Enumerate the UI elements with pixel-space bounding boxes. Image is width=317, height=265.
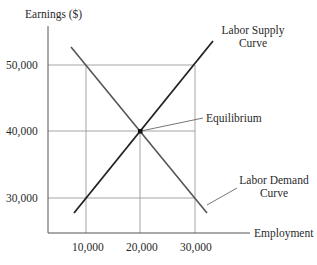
supply-curve-label: Labor Supply Curve <box>213 24 293 50</box>
y-axis-title: Earnings ($) <box>25 8 82 21</box>
supply-label-line2: Curve <box>213 37 293 50</box>
x-tick-30000: 30,000 <box>180 241 212 254</box>
demand-curve-label: Labor Demand Curve <box>232 174 316 200</box>
x-tick-20000: 20,000 <box>126 241 158 254</box>
y-tick-40000: 40,000 <box>6 125 38 138</box>
y-tick-50000: 50,000 <box>6 59 38 72</box>
equilibrium-label: Equilibrium <box>206 112 262 125</box>
x-axis-title: Employment <box>254 227 313 240</box>
supply-label-line1: Labor Supply <box>213 24 293 37</box>
demand-label-line2: Curve <box>232 187 316 200</box>
x-tick-10000: 10,000 <box>72 241 104 254</box>
y-tick-30000: 30,000 <box>6 192 38 205</box>
demand-label-line1: Labor Demand <box>232 174 316 187</box>
equilibrium-point <box>138 129 143 134</box>
labor-supply-curve <box>74 41 213 213</box>
